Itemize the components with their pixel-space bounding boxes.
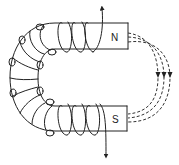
diagram-canvas: N S [0, 0, 179, 165]
current-out-lead [100, 104, 106, 156]
magnetic-field-lines [128, 33, 173, 122]
south-pole-label: S [112, 114, 119, 125]
electromagnet-diagram: N S [0, 0, 179, 165]
field-arrow-icon [162, 72, 167, 78]
north-pole-label: N [111, 32, 118, 43]
coil-windings-top [58, 22, 93, 52]
core-inner-edge [38, 49, 128, 106]
field-arrow-icon [168, 72, 173, 78]
coil-windings-bottom [58, 104, 100, 135]
field-arrow-icon [156, 72, 161, 78]
current-in-lead [93, 8, 103, 52]
coil-windings-curved [9, 24, 56, 136]
field-line-inner [128, 33, 158, 114]
